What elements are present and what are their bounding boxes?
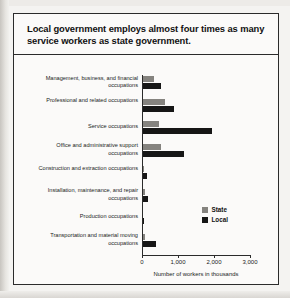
legend-label-state: State	[212, 206, 227, 213]
y-axis-line	[142, 75, 143, 255]
scan-edge-top	[0, 0, 290, 6]
bar-local	[142, 241, 156, 247]
category-label: Office and administrative support occupa…	[30, 142, 138, 156]
bar-local	[142, 83, 161, 89]
bar-state	[142, 121, 159, 127]
bar-local	[142, 151, 184, 157]
category-label: Construction and extraction occupations	[30, 165, 138, 172]
plot-area: Management, business, and financial occu…	[14, 54, 278, 284]
x-axis-tick	[178, 255, 179, 258]
legend-label-local: Local	[212, 216, 228, 223]
x-axis-tick-label: 2,000	[199, 259, 229, 265]
x-axis-tick	[214, 255, 215, 258]
chart-title: Local government employs almost four tim…	[27, 23, 265, 47]
scan-edge-bottom	[0, 291, 290, 298]
x-axis-line	[142, 255, 250, 256]
category-label: Installation, maintenance, and repair oc…	[30, 187, 138, 201]
scanned-page: Local government employs almost four tim…	[0, 0, 290, 298]
x-axis-tick-label: 0	[127, 259, 157, 265]
x-axis-tick-label: 3,000	[235, 259, 265, 265]
chart-legend: State Local	[202, 206, 228, 226]
x-axis-tick	[250, 255, 251, 258]
x-axis-tick	[142, 255, 143, 258]
bar-state	[142, 76, 154, 82]
legend-swatch-state-icon	[202, 207, 208, 213]
x-axis-tick-label: 1,000	[163, 259, 193, 265]
legend-swatch-local-icon	[202, 217, 208, 223]
category-label: Management, business, and financial occu…	[30, 75, 138, 89]
category-label: Service occupations	[30, 123, 138, 130]
chart-figure: Local government employs almost four tim…	[13, 13, 279, 285]
bar-local	[142, 106, 174, 112]
x-axis-title: Number of workers in thousands	[142, 271, 250, 277]
bar-local	[142, 128, 212, 134]
legend-item-state: State	[202, 206, 228, 213]
category-label: Transportation and material moving occup…	[30, 232, 138, 246]
category-label: Production occupations	[30, 213, 138, 220]
category-label: Professional and related occupations	[30, 97, 138, 104]
bar-state	[142, 144, 161, 150]
scan-edge-left	[0, 0, 9, 298]
legend-item-local: Local	[202, 216, 228, 223]
bar-state	[142, 99, 165, 105]
